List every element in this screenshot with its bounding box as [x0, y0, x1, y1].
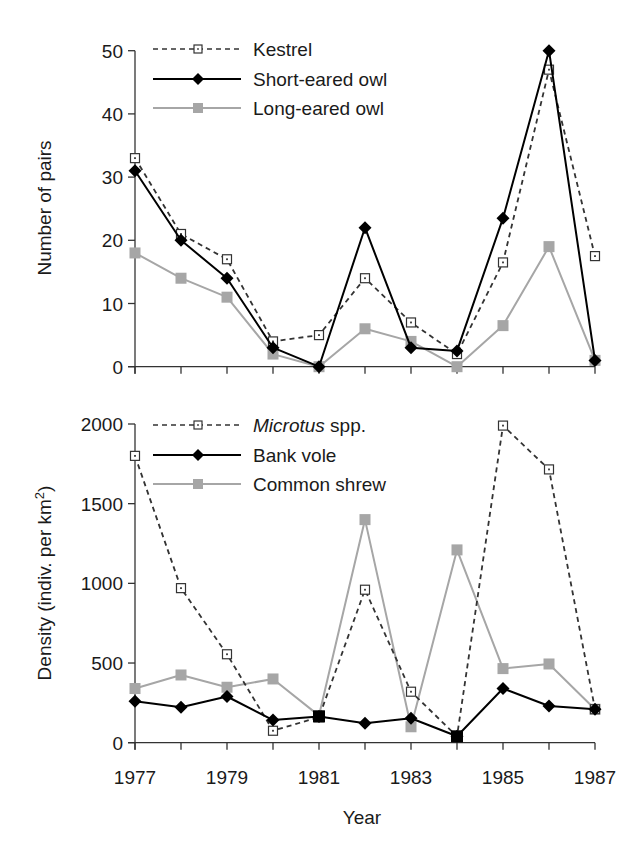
legend-label-microtus: Microtus spp.: [253, 415, 366, 436]
figure: 01020304050 Number of pairs Kestrel Shor…: [0, 0, 635, 845]
data-point-marker: [544, 241, 555, 252]
bottom-legend: Microtus spp. Bank vole Common shrew: [153, 415, 386, 495]
chart-canvas: 01020304050 Number of pairs Kestrel Shor…: [0, 0, 635, 845]
top-y-tick-label: 30: [102, 167, 123, 188]
data-point-marker: [543, 44, 556, 57]
x-tick-label: 1987: [574, 767, 616, 788]
x-tick-label: 1977: [114, 767, 156, 788]
data-point-marker: [313, 710, 325, 722]
data-point-marker: [175, 701, 188, 714]
bottom-y-axis-title: Density (indiv. per km2): [32, 486, 55, 681]
legend-label-bank-vole: Bank vole: [253, 445, 336, 466]
x-tick-label: 1981: [298, 767, 340, 788]
top-y-axis-title: Number of pairs: [34, 140, 55, 275]
data-point-marker: [544, 658, 555, 669]
legend-label-long-eared-owl: Long-eared owl: [253, 98, 384, 119]
top-legend: Kestrel Short-eared owl Long-eared owl: [153, 39, 387, 119]
top-y-tick-label: 50: [102, 41, 123, 62]
top-series-lines: [129, 44, 602, 373]
data-point-marker: [543, 700, 556, 713]
data-point-marker: [176, 669, 187, 680]
data-point-marker: [498, 663, 509, 674]
legend-label-kestrel: Kestrel: [253, 39, 312, 60]
data-point-marker: [268, 673, 279, 684]
data-point-marker: [267, 714, 280, 727]
data-point-marker: [359, 717, 372, 730]
data-point-marker: [130, 247, 141, 258]
data-point-marker: [360, 514, 371, 525]
top-y-tick-label: 20: [102, 230, 123, 251]
data-point-marker: [497, 212, 510, 225]
data-point-marker: [451, 730, 463, 742]
top-y-tick-label: 40: [102, 104, 123, 125]
filled-square-marker-icon: [193, 479, 203, 489]
data-point-marker: [452, 544, 463, 555]
legend-item-microtus: Microtus spp.: [153, 415, 366, 436]
bottom-panel-density: 0500100015002000197719791981198319851987…: [32, 414, 616, 828]
bottom-y-tick-label: 1500: [81, 494, 123, 515]
bottom-y-tick-label: 2000: [81, 414, 123, 435]
bottom-y-tick-label: 0: [112, 733, 123, 754]
legend-item-long-eared-owl: Long-eared owl: [153, 98, 384, 119]
series-microtus-spp: [131, 421, 600, 741]
legend-label-common-shrew: Common shrew: [253, 474, 386, 495]
data-point-marker: [130, 683, 141, 694]
data-point-marker: [222, 292, 233, 303]
x-tick-label: 1983: [390, 767, 432, 788]
legend-label-short-eared-owl: Short-eared owl: [253, 69, 387, 90]
bottom-y-tick-label: 500: [91, 653, 123, 674]
legend-item-short-eared-owl: Short-eared owl: [153, 69, 387, 90]
x-tick-label: 1979: [206, 767, 248, 788]
bottom-series-lines: [129, 421, 602, 743]
data-point-marker: [360, 323, 371, 334]
top-axes: 01020304050: [102, 41, 595, 378]
legend-item-common-shrew: Common shrew: [153, 474, 386, 495]
top-panel-pairs: 01020304050 Number of pairs Kestrel Shor…: [34, 39, 602, 378]
data-point-marker: [359, 221, 372, 234]
data-point-marker: [498, 320, 509, 331]
bottom-y-tick-label: 1000: [81, 573, 123, 594]
data-point-marker: [452, 361, 463, 372]
top-y-tick-label: 0: [112, 357, 123, 378]
data-point-marker: [176, 273, 187, 284]
data-point-marker: [129, 695, 142, 708]
diamond-marker-icon: [192, 73, 204, 85]
x-axis-title: Year: [343, 807, 382, 828]
filled-square-marker-icon: [193, 103, 203, 113]
diamond-marker-icon: [192, 449, 204, 461]
legend-item-bank-vole: Bank vole: [153, 445, 336, 466]
top-y-tick-label: 10: [102, 294, 123, 315]
bottom-axes: 0500100015002000197719791981198319851987: [81, 414, 616, 788]
legend-item-kestrel: Kestrel: [153, 39, 312, 60]
x-tick-label: 1985: [482, 767, 524, 788]
series-bank-vole: [129, 682, 602, 743]
series-long-eared-owl: [130, 241, 601, 372]
